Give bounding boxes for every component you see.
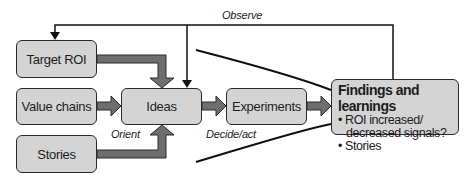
node-findings-and-learnings: Findings and learnings • ROI increased/ … — [331, 79, 459, 135]
arrowhead-to-target-roi-icon — [50, 32, 60, 40]
node-experiments-label: Experiments — [232, 99, 301, 114]
thick-arrow-value-chains-to-ideas — [97, 96, 121, 116]
thick-arrow-target-roi-to-ideas — [97, 55, 174, 88]
node-ideas: Ideas — [121, 88, 202, 125]
node-value-chains-label: Value chains — [22, 99, 92, 114]
node-target-roi-label: Target ROI — [27, 52, 87, 67]
label-observe: Observe — [222, 9, 262, 21]
label-decide-act: Decide/act — [206, 128, 256, 140]
thick-arrow-ideas-to-experiments — [202, 96, 226, 116]
thick-arrow-experiments-to-findings — [307, 96, 331, 116]
arrowhead-to-ideas-icon — [182, 80, 192, 88]
findings-title: Findings and learnings — [338, 82, 453, 114]
node-stories: Stories — [16, 135, 97, 173]
node-stories-label: Stories — [37, 147, 75, 162]
node-experiments: Experiments — [226, 88, 307, 125]
findings-bullet-stories: • Stories — [338, 140, 381, 153]
node-value-chains: Value chains — [16, 88, 97, 125]
ooda-diagram: Target ROI Value chains Stories Ideas Ex… — [0, 0, 472, 182]
node-target-roi: Target ROI — [16, 40, 97, 78]
label-orient: Orient — [111, 128, 140, 140]
funnel-curve-top — [196, 50, 331, 90]
node-ideas-label: Ideas — [146, 99, 176, 114]
